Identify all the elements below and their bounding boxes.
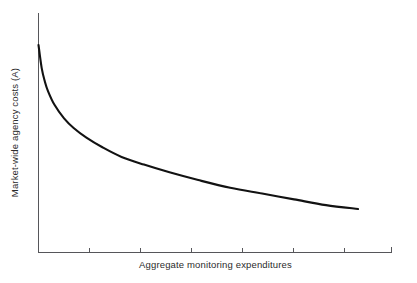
x-axis-title: Aggregate monitoring expenditures — [38, 259, 393, 270]
chart-figure: Market-wide agency costs (A) Aggregate m… — [0, 0, 417, 283]
agency-cost-curve — [39, 45, 359, 209]
x-axis-ticks — [39, 247, 392, 253]
y-axis-title-container: Market-wide agency costs (A) — [0, 13, 30, 252]
chart-plot-area — [0, 0, 417, 283]
y-axis-title: Market-wide agency costs (A) — [10, 68, 21, 197]
